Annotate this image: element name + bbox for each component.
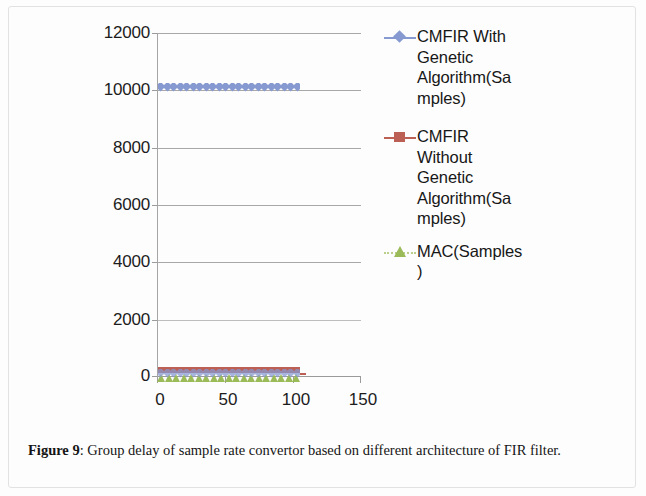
legend-label-line: mples) xyxy=(417,88,627,109)
xlabel-0: 0 xyxy=(155,390,164,410)
legend-label-line: Genetic xyxy=(417,167,627,188)
scanned-page: 12000 10000 8000 6000 4000 2000 0 0 50 1… xyxy=(0,0,646,496)
legend-label-line: MAC(Samples xyxy=(417,241,627,262)
xtick-150 xyxy=(360,377,361,383)
ytick-12000 xyxy=(152,33,157,34)
legend-label-line: CMFIR With xyxy=(417,26,627,47)
ylabel-4000: 4000 xyxy=(113,252,150,272)
legend-label-line: Genetic xyxy=(417,47,627,68)
ylabel-2000: 2000 xyxy=(113,310,150,330)
gridline-6000 xyxy=(157,205,361,206)
legend-label-line: Without xyxy=(417,147,627,168)
ytick-4000 xyxy=(152,262,157,263)
legend-label-line: ) xyxy=(417,261,627,282)
y-axis-ticks xyxy=(152,33,158,377)
diamond-marker-icon xyxy=(393,30,406,43)
caption-label: Figure 9 xyxy=(28,442,80,458)
legend-key-cmfir-with-ga xyxy=(383,28,417,48)
gridline-12000 xyxy=(157,33,361,34)
ylabel-8000: 8000 xyxy=(113,138,150,158)
series-tail-connector xyxy=(300,373,306,375)
legend-key-mac xyxy=(383,243,417,263)
legend-entry-cmfir-without-ga[interactable]: CMFIR Without Genetic Algorithm(Sa mples… xyxy=(383,126,633,229)
ylabel-6000: 6000 xyxy=(113,195,150,215)
legend-label-line: mples) xyxy=(417,208,627,229)
legend-label-line: CMFIR xyxy=(417,126,627,147)
ytick-6000 xyxy=(152,205,157,206)
ytick-0 xyxy=(152,376,157,377)
ytick-10000 xyxy=(152,90,157,91)
gridline-8000 xyxy=(157,148,361,149)
gridline-2000 xyxy=(157,320,361,321)
legend-label-line: Algorithm(Sa xyxy=(417,67,627,88)
ytick-8000 xyxy=(152,148,157,149)
caption-body: Group delay of sample rate convertor bas… xyxy=(87,442,561,458)
legend-label-mac: MAC(Samples ) xyxy=(417,241,627,282)
chart-area: 12000 10000 8000 6000 4000 2000 0 0 50 1… xyxy=(0,0,646,430)
xlabel-100: 100 xyxy=(282,390,310,410)
gridline-4000 xyxy=(157,262,361,263)
series-band-bottom-overlay xyxy=(157,369,300,378)
figure-caption: Figure 9: Group delay of sample rate con… xyxy=(28,442,624,459)
series-band-cmfir-with-ga xyxy=(157,83,300,97)
legend-label-cmfir-with-ga: CMFIR With Genetic Algorithm(Sa mples) xyxy=(417,26,627,108)
ylabel-0: 0 xyxy=(141,366,150,386)
legend-label-line: Algorithm(Sa xyxy=(417,188,627,209)
ylabel-12000: 12000 xyxy=(104,23,150,43)
ytick-2000 xyxy=(152,320,157,321)
plot-area xyxy=(157,33,361,377)
triangle-marker-icon xyxy=(394,246,406,257)
legend-label-cmfir-without-ga: CMFIR Without Genetic Algorithm(Sa mples… xyxy=(417,126,627,229)
xlabel-150: 150 xyxy=(349,390,377,410)
ylabel-10000: 10000 xyxy=(104,80,150,100)
legend-entry-cmfir-with-ga[interactable]: CMFIR With Genetic Algorithm(Sa mples) xyxy=(383,26,633,108)
legend-entry-mac[interactable]: MAC(Samples ) xyxy=(383,241,633,282)
square-marker-icon xyxy=(394,132,405,142)
chart-legend: CMFIR With Genetic Algorithm(Sa mples) C… xyxy=(383,26,633,282)
legend-key-cmfir-without-ga xyxy=(383,128,417,148)
x-axis-labels: 0 50 100 150 xyxy=(0,390,430,416)
xlabel-50: 50 xyxy=(219,390,238,410)
